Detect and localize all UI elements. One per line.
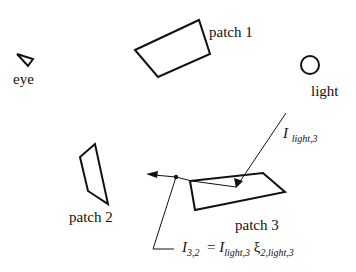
eye-label: eye bbox=[13, 72, 34, 87]
patch-2-shape bbox=[80, 144, 108, 204]
patch-1-label: patch 1 bbox=[209, 25, 253, 40]
light-label: light bbox=[311, 84, 339, 99]
rhs-subscript: light,3 bbox=[224, 247, 250, 258]
reflected-intensity-formula: I3,2 = Ilight,3 ξ2,light,3 bbox=[182, 240, 294, 255]
patch-3-shape bbox=[190, 173, 285, 210]
xi-subscript: 2,light,3 bbox=[261, 247, 294, 258]
reflected-arrowhead bbox=[146, 171, 158, 178]
xi-symbol: ξ bbox=[254, 239, 261, 255]
eye-icon bbox=[17, 54, 33, 66]
patch-2-label: patch 2 bbox=[69, 210, 113, 225]
patch-3-label: patch 3 bbox=[235, 218, 279, 233]
incident-symbol: I bbox=[283, 125, 288, 141]
formula-leader-line bbox=[153, 177, 176, 249]
equals-sign: = bbox=[207, 239, 215, 255]
lhs-subscript: 3,2 bbox=[187, 247, 200, 258]
patch-1-shape bbox=[135, 20, 210, 77]
incident-subscript: light,3 bbox=[292, 133, 318, 144]
incident-intensity-label: I light,3 bbox=[283, 126, 318, 141]
light-source-icon bbox=[301, 56, 319, 74]
